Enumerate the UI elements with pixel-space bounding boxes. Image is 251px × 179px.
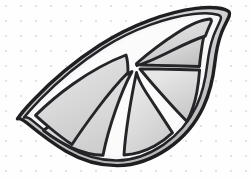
drawing-canvas: Citrus Slice A hand-drawn half-round cit… bbox=[0, 0, 251, 179]
citrus-slice-illustration: Citrus Slice A hand-drawn half-round cit… bbox=[0, 0, 251, 179]
apex-core bbox=[132, 65, 136, 69]
